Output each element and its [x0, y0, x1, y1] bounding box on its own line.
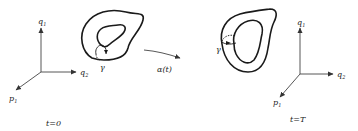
- right-torus-inner-hole: [234, 20, 263, 63]
- right-q1-label: q1: [297, 18, 305, 28]
- phase-space-diagram: q1 q2 p1 γ α(t) γ q1 q2 p1 t=0 t=T: [0, 0, 358, 131]
- left-torus: γ: [82, 11, 144, 73]
- right-torus: γ: [216, 9, 276, 72]
- right-coordinate-axes: q1 q2 p1: [273, 18, 345, 108]
- left-coordinate-axes: q1 q2 p1: [9, 17, 88, 104]
- right-p1-label: p1: [273, 98, 281, 108]
- left-gamma-loop-solid: [96, 45, 101, 54]
- right-time-label: t=T: [290, 115, 306, 124]
- left-torus-outer-boundary: [82, 11, 144, 61]
- left-q1-label: q1: [38, 17, 46, 27]
- left-torus-inner-hole: [97, 25, 125, 47]
- left-gamma-label: γ: [100, 63, 105, 72]
- left-gamma-direction-arrow: [104, 50, 108, 54]
- right-q2-label: q2: [337, 70, 345, 80]
- left-p1-label: p1: [9, 94, 17, 104]
- flow-arrow: [144, 50, 180, 58]
- right-p1-axis: [280, 74, 300, 97]
- left-q2-label: q2: [80, 68, 88, 78]
- flow-map: α(t): [144, 50, 180, 74]
- left-p1-axis: [16, 72, 41, 90]
- alpha-map-label: α(t): [157, 65, 172, 74]
- right-gamma-label: γ: [216, 45, 221, 54]
- left-time-label: t=0: [46, 119, 61, 128]
